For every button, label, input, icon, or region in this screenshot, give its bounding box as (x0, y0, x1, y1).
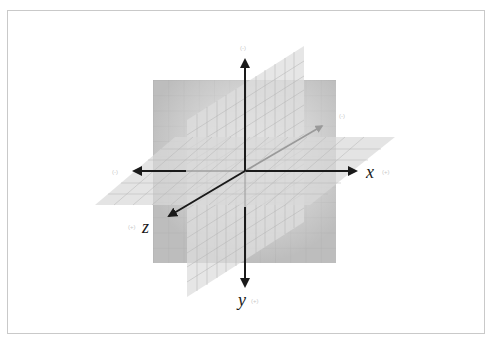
y-negative-sign: (-) (240, 45, 246, 51)
z-axis-label: z (141, 217, 149, 237)
x-positive-sign: (+) (382, 169, 390, 175)
x-axis-label: x (365, 162, 374, 182)
coordinate-diagram: x (+) (-) y (+) (-) z (+) (-) (0, 0, 492, 345)
y-positive-sign: (+) (251, 298, 259, 304)
z-negative-sign: (-) (339, 113, 345, 119)
z-positive-sign: (+) (128, 224, 136, 230)
x-negative-sign: (-) (112, 169, 118, 175)
y-axis-label: y (236, 290, 246, 310)
